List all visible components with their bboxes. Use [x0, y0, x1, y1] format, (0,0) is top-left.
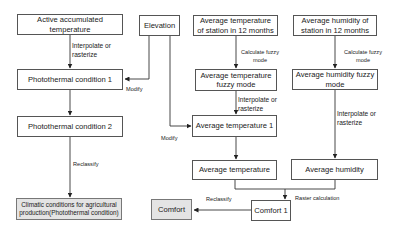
node-label: Active accumulated temperature [20, 15, 120, 34]
node-avg-temp-1: Average temperature 1 [192, 115, 277, 137]
node-avg-humidity-fuzzy: Average humidity fuzzy mode [292, 69, 378, 90]
edge-label-calc-fuzzy-temp: Calculate fuzzy mode [240, 49, 280, 64]
node-label: Average temperature fuzzy mode [198, 71, 274, 90]
edge-label-modify-2: Modify [161, 135, 177, 143]
node-comfort: Comfort [151, 199, 192, 220]
node-climatic-conditions: Climatic conditions for agricultural pro… [16, 198, 122, 220]
node-avg-temp-fuzzy: Average temperature fuzzy mode [195, 69, 277, 91]
node-label: Elevation [144, 21, 175, 31]
edge-label-modify-1: Modify [126, 86, 142, 94]
node-label: Photothermal condition 2 [28, 122, 112, 132]
edge-label-reclassify-2: Reclassify [206, 196, 232, 204]
node-avg-temp: Average temperature [192, 160, 277, 180]
node-elevation: Elevation [139, 15, 180, 36]
edge-label-calc-fuzzy-hum: Calculate fuzzy mode [343, 49, 383, 64]
node-comfort-1: Comfort 1 [251, 200, 291, 221]
node-label: Average temperature 1 [196, 121, 274, 131]
node-avg-temp-station: Average temperature of station in 12 mon… [193, 15, 278, 36]
edge-label-interpolate-hum: Interpolate or rasterize [337, 110, 389, 127]
flowchart-canvas: Active accumulated temperature Elevation… [0, 0, 397, 236]
node-photothermal-1: Photothermal condition 1 [17, 69, 123, 90]
node-label: Average humidity of station in 12 months [296, 16, 374, 35]
node-label: Photothermal condition 1 [28, 75, 112, 85]
edge-label-interpolate-1: Interpolate or rasterize [72, 42, 124, 59]
node-label: Average temperature of station in 12 mon… [196, 16, 275, 35]
node-avg-humidity: Average humidity [291, 159, 378, 180]
node-label: Climatic conditions for agricultural pro… [19, 201, 119, 217]
node-label: Average humidity fuzzy mode [295, 70, 375, 89]
edge-label-interpolate-temp: Interpolate or rasterize [238, 96, 290, 113]
node-label: Comfort [158, 205, 185, 215]
node-label: Comfort 1 [254, 206, 287, 216]
node-label: Average humidity [305, 165, 364, 175]
edge-label-reclassify-1: Reclassify [73, 161, 99, 169]
node-avg-humidity-station: Average humidity of station in 12 months [293, 15, 377, 36]
node-label: Average temperature [199, 165, 270, 175]
node-active-accumulated-temperature: Active accumulated temperature [17, 14, 123, 35]
edge-label-raster-calc: Raster calculation [295, 195, 339, 203]
node-photothermal-2: Photothermal condition 2 [17, 116, 123, 137]
